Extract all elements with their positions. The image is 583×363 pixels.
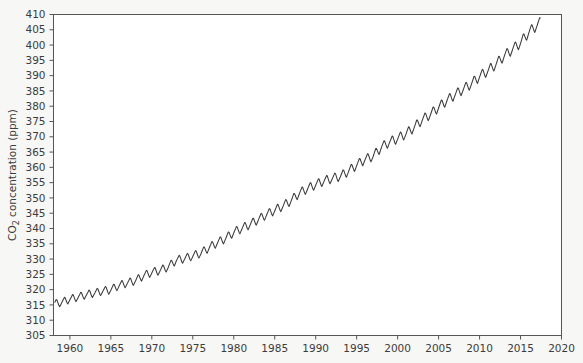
x-tick-label: 2005 [425, 342, 452, 354]
x-tick-label: 1960 [57, 342, 84, 354]
x-tick-label: 1970 [138, 342, 165, 354]
y-tick-label: 385 [25, 85, 45, 97]
y-tick-label: 325 [25, 268, 45, 280]
x-tick-label: 1995 [343, 342, 370, 354]
y-tick-label: 350 [25, 192, 45, 204]
y-tick-label: 380 [25, 100, 45, 112]
x-tick-label: 1980 [220, 342, 247, 354]
y-tick-label: 330 [25, 253, 45, 265]
x-tick-label: 1990 [302, 342, 329, 354]
y-tick-label: 315 [25, 299, 45, 311]
x-tick-label: 2020 [548, 342, 575, 354]
chart-canvas: 3053103153203253303353403453503553603653… [0, 0, 583, 363]
x-tick-label: 2010 [466, 342, 493, 354]
y-tick-label: 335 [25, 237, 45, 249]
x-tick-label: 1975 [179, 342, 206, 354]
y-tick-label: 365 [25, 146, 45, 158]
y-tick-label: 320 [25, 283, 45, 295]
y-tick-label: 345 [25, 207, 45, 219]
y-tick-label: 375 [25, 115, 45, 127]
y-tick-label: 370 [25, 130, 45, 142]
x-tick-label: 1985 [261, 342, 288, 354]
y-tick-label: 410 [25, 8, 45, 20]
y-tick-label: 305 [25, 329, 45, 341]
y-tick-label: 400 [25, 39, 45, 51]
y-tick-label: 395 [25, 54, 45, 66]
x-tick-label: 2015 [507, 342, 534, 354]
y-tick-label: 405 [25, 23, 45, 35]
y-tick-label: 360 [25, 161, 45, 173]
y-tick-label: 390 [25, 69, 45, 81]
co2-concentration-chart: 3053103153203253303353403453503553603653… [0, 0, 583, 363]
y-tick-label: 310 [25, 314, 45, 326]
y-tick-label: 355 [25, 176, 45, 188]
x-tick-label: 1965 [97, 342, 124, 354]
x-tick-label: 2000 [384, 342, 411, 354]
y-tick-label: 340 [25, 222, 45, 234]
plot-area-border [54, 15, 562, 336]
